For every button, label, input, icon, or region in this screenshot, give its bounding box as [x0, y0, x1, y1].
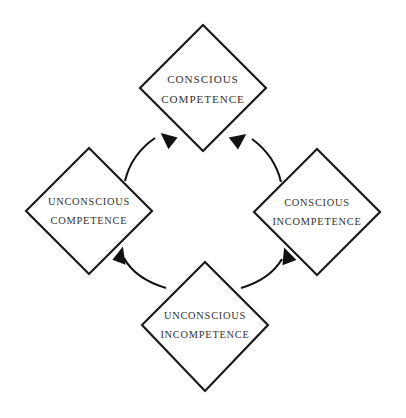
arrow-head-right-top: [229, 128, 251, 150]
diamond-shape-left: [26, 148, 152, 274]
arrow-head-left-top: [156, 128, 178, 150]
node-label-top-line1: CONSCIOUS: [167, 73, 239, 85]
diamond-shape-bottom: [142, 262, 268, 391]
node-label-left-line1: UNCONSCIOUS: [48, 196, 130, 207]
node-label-right-line1: CONSCIOUS: [284, 197, 350, 208]
arrow-unconscious-competence-to-conscious-competence: [125, 128, 178, 181]
node-unconscious-incompetence[interactable]: UNCONSCIOUS INCOMPETENCE: [142, 262, 268, 391]
diamond-shape-top: [140, 25, 266, 151]
competence-cycle-diagram: CONSCIOUS COMPETENCE UNCONSCIOUS COMPETE…: [0, 0, 406, 418]
diagram-canvas: CONSCIOUS COMPETENCE UNCONSCIOUS COMPETE…: [0, 0, 406, 418]
arrow-curve-left-top: [125, 138, 155, 181]
node-unconscious-competence[interactable]: UNCONSCIOUS COMPETENCE: [26, 148, 152, 274]
node-label-bottom-line1: UNCONSCIOUS: [164, 310, 246, 321]
arrow-unconscious-incompetence-to-unconscious-competence: [112, 245, 166, 288]
arrow-conscious-incompetence-to-conscious-competence: [229, 128, 281, 182]
node-conscious-incompetence[interactable]: CONSCIOUS INCOMPETENCE: [254, 149, 380, 275]
arrow-curve-bottom-right: [241, 259, 282, 288]
arrow-curve-bottom-left: [124, 258, 166, 288]
node-label-right-line2: INCOMPETENCE: [272, 216, 361, 227]
node-conscious-competence[interactable]: CONSCIOUS COMPETENCE: [140, 25, 266, 151]
node-label-bottom-line2: INCOMPETENCE: [160, 329, 249, 340]
arrow-curve-right-top: [252, 139, 281, 182]
arrow-unconscious-incompetence-to-conscious-incompetence: [241, 245, 296, 288]
diamond-shape-right: [254, 149, 380, 275]
node-label-left-line2: COMPETENCE: [51, 215, 128, 226]
node-label-top-line2: COMPETENCE: [161, 93, 245, 105]
